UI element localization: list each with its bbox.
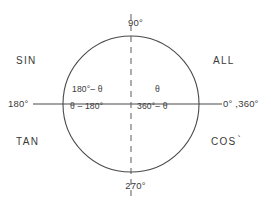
quadrant-mnemonic-all: ALL <box>213 56 235 66</box>
expression-second-quadrant: 180°– θ <box>72 85 103 94</box>
angle-label-0-360: 0° ,360° <box>223 99 259 109</box>
quadrant-mnemonic-sin: SIN <box>16 56 37 66</box>
expression-fourth-quadrant: 360°– θ <box>137 102 168 111</box>
quadrant-mnemonic-tan: TAN <box>16 137 39 147</box>
quadrant-mnemonic-cos: COS` <box>211 137 241 147</box>
unit-circle-diagram: 90° 270° 180° 0° ,360° SIN ALL TAN COS` … <box>0 0 271 207</box>
expression-first-quadrant: θ <box>155 85 160 94</box>
angle-label-90: 90° <box>0 18 271 28</box>
expression-third-quadrant: θ – 180° <box>70 102 103 111</box>
angle-label-180: 180° <box>8 99 28 109</box>
quadrant-mnemonic-cos-text: COS <box>211 136 237 147</box>
angle-label-270: 270° <box>0 181 271 191</box>
cos-tick-mark: ` <box>238 135 243 146</box>
